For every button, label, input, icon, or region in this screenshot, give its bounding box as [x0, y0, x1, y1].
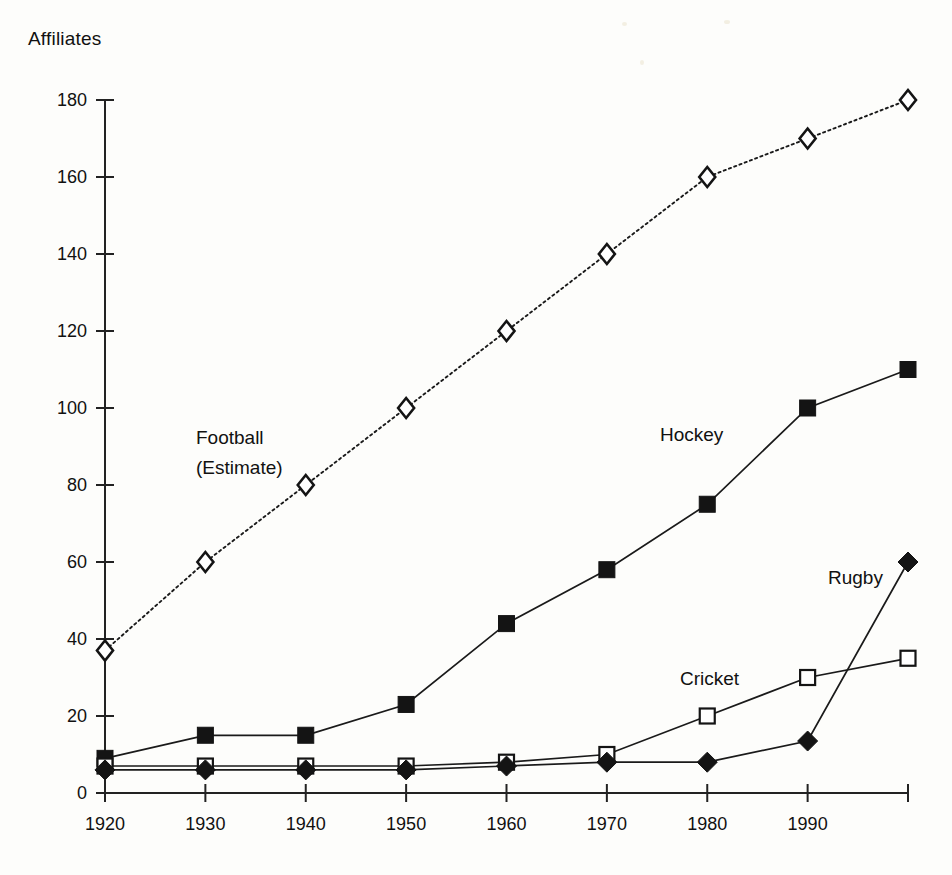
data-point-open-diamond	[197, 552, 213, 572]
x-tick-label: 1990	[788, 814, 828, 834]
data-point-open-diamond	[699, 167, 715, 187]
x-tick-label: 1960	[486, 814, 526, 834]
series-annotation-label: Football	[196, 427, 264, 448]
x-tick-label: 1920	[85, 814, 125, 834]
line-chart-plot: 0204060801001201401601801920193019401950…	[0, 0, 952, 875]
data-point-filled-square	[398, 696, 414, 712]
data-point-filled-diamond	[798, 731, 818, 751]
series-hockey	[97, 362, 916, 767]
scan-artifact-speck	[724, 20, 730, 24]
series-line	[105, 562, 908, 770]
data-point-filled-diamond	[898, 552, 918, 572]
scan-artifact-speck	[622, 22, 627, 26]
data-point-open-diamond	[599, 244, 615, 264]
data-point-filled-diamond	[697, 752, 717, 772]
data-point-filled-square	[900, 362, 916, 378]
series-annotation-label: (Estimate)	[196, 457, 283, 478]
y-tick-label: 80	[67, 475, 87, 495]
data-point-open-diamond	[97, 641, 113, 661]
y-tick-label: 140	[57, 244, 87, 264]
y-tick-label: 100	[57, 398, 87, 418]
scan-artifact-speck	[640, 60, 644, 65]
y-tick-label: 60	[67, 552, 87, 572]
data-point-open-diamond	[499, 321, 515, 341]
series-annotations: Football(Estimate)HockeyCricketRugby	[196, 424, 883, 689]
data-point-filled-square	[298, 727, 314, 743]
series-annotation-label: Cricket	[680, 668, 740, 689]
data-point-filled-square	[699, 496, 715, 512]
series-annotation-label: Hockey	[660, 424, 724, 445]
data-point-open-diamond	[900, 90, 916, 110]
data-point-open-square	[700, 709, 715, 724]
data-point-open-square	[800, 670, 815, 685]
x-tick-label: 1930	[185, 814, 225, 834]
ticks-group: 0204060801001201401601801920193019401950…	[57, 90, 908, 834]
chart-container: Affiliates 02040608010012014016018019201…	[0, 0, 952, 875]
series-line	[105, 100, 908, 651]
y-tick-label: 120	[57, 321, 87, 341]
data-point-open-diamond	[298, 475, 314, 495]
x-tick-label: 1940	[286, 814, 326, 834]
series-annotation-label: Rugby	[828, 567, 883, 588]
series-cricket	[98, 651, 916, 774]
data-point-filled-square	[800, 400, 816, 416]
x-tick-label: 1970	[587, 814, 627, 834]
y-tick-label: 160	[57, 167, 87, 187]
data-point-open-diamond	[398, 398, 414, 418]
y-tick-label: 180	[57, 90, 87, 110]
y-tick-label: 0	[77, 783, 87, 803]
data-point-filled-square	[599, 562, 615, 578]
data-point-filled-square	[499, 616, 515, 632]
y-tick-label: 40	[67, 629, 87, 649]
data-point-open-square	[901, 651, 916, 666]
data-point-filled-square	[197, 727, 213, 743]
series-line	[105, 658, 908, 766]
x-tick-label: 1980	[687, 814, 727, 834]
series-football	[97, 90, 916, 661]
y-tick-label: 20	[67, 706, 87, 726]
series-rugby	[95, 552, 918, 780]
data-point-open-diamond	[800, 129, 816, 149]
x-tick-label: 1950	[386, 814, 426, 834]
